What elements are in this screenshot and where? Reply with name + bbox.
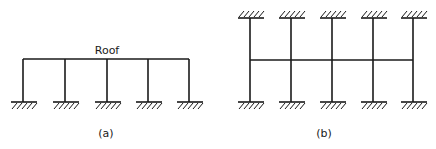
fixed-support-icon: [177, 102, 203, 109]
fixed-support-top-icon: [279, 11, 305, 18]
frame-a: Roof (a): [11, 44, 203, 140]
fixed-support-top-icon: [401, 11, 427, 18]
frame-diagrams: Roof (a) (b): [0, 0, 436, 149]
fixed-support-top-icon: [238, 11, 264, 18]
fixed-support-icon: [238, 102, 264, 109]
roof-label: Roof: [95, 44, 121, 57]
fixed-support-icon: [95, 102, 121, 109]
fixed-support-icon: [136, 102, 162, 109]
fixed-support-icon: [320, 102, 346, 109]
fixed-support-icon: [401, 102, 427, 109]
fixed-support-icon: [279, 102, 305, 109]
fixed-support-icon: [53, 102, 79, 109]
caption-a: (a): [98, 127, 113, 140]
caption-b: (b): [316, 127, 332, 140]
frame-b: (b): [238, 11, 427, 140]
fixed-support-icon: [11, 102, 37, 109]
fixed-support-icon: [361, 102, 387, 109]
fixed-support-top-icon: [320, 11, 346, 18]
fixed-support-top-icon: [361, 11, 387, 18]
